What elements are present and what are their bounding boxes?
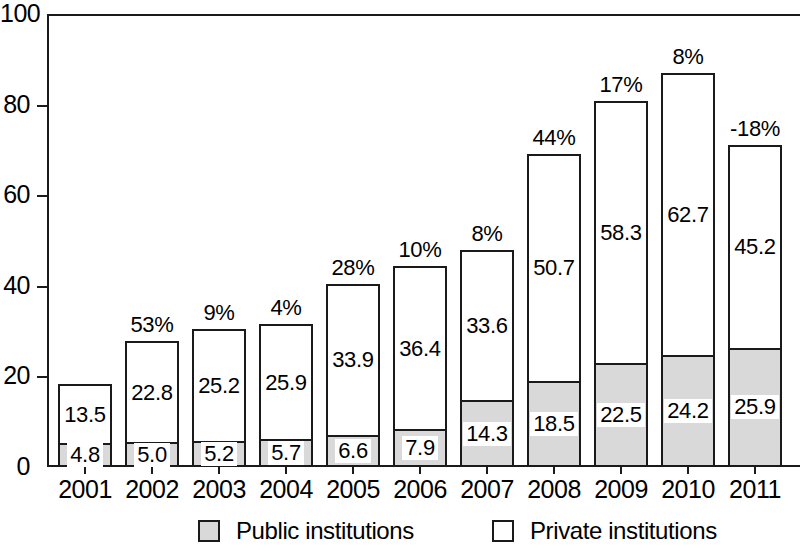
bar-segment-public[interactable]: 5.2 [192,441,246,467]
stacked-bar-chart: 020406080100 13.54.853%22.85.09%25.25.24… [0,0,810,551]
y-axis-label: 100 [0,1,30,26]
bar-value-private: 13.5 [64,404,106,426]
y-axis-label: 80 [0,92,30,117]
bar-value-public: 5.0 [134,443,170,467]
bar-segment-public[interactable]: 4.8 [58,443,112,467]
bar-value-public: 18.5 [530,412,578,436]
x-axis-tick [285,467,287,474]
y-axis-label: 60 [0,182,30,207]
bar-group[interactable]: 8%33.614.3 [460,250,514,467]
growth-percentage-label: 8% [471,223,502,245]
bar-value-public: 7.9 [402,436,438,460]
bar-segment-private[interactable]: 22.8 [125,341,179,444]
bar-segment-private[interactable]: 45.2 [728,145,782,350]
bar-group[interactable]: 44%50.718.5 [527,154,581,467]
chart-legend: Public institutionsPrivate institutions [0,517,810,547]
bar-segment-public[interactable]: 7.9 [393,429,447,467]
bar-segment-public[interactable]: 14.3 [460,400,514,467]
x-axis-tick [151,467,153,474]
growth-percentage-label: 44% [532,127,575,149]
bar-value-private: 22.8 [131,382,173,404]
growth-percentage-label: 53% [130,314,173,336]
y-axis-tick [37,376,47,378]
bar-group[interactable]: 13.54.8 [58,384,112,467]
y-axis-label: 0 [0,454,30,479]
bar-value-public: 6.6 [335,439,371,463]
bar-segment-private[interactable]: 25.9 [259,324,313,441]
bar-segment-public[interactable]: 18.5 [527,381,581,467]
bar-segment-private[interactable]: 58.3 [594,101,648,365]
bar-segment-private[interactable]: 25.2 [192,329,246,443]
bar-value-private: 33.9 [332,349,374,371]
bar-segment-public[interactable]: 6.6 [326,435,380,467]
growth-percentage-label: 9% [203,302,234,324]
y-axis-tick [37,195,47,197]
legend-label-public: Public institutions [236,519,414,543]
bar-segment-private[interactable]: 50.7 [527,154,581,384]
bar-value-private: 58.3 [600,222,642,244]
bar-group[interactable]: 4%25.95.7 [259,324,313,467]
bar-value-public: 25.9 [731,395,779,419]
bar-value-private: 45.2 [734,236,776,258]
growth-percentage-label: -18% [730,118,780,140]
x-axis-tick [352,467,354,474]
y-axis-tick [37,286,47,288]
bar-value-private: 50.7 [533,257,575,279]
bar-segment-private[interactable]: 62.7 [661,73,715,357]
x-axis-tick [419,467,421,474]
bar-segment-private[interactable]: 13.5 [58,384,112,445]
bar-group[interactable]: 28%33.96.6 [326,284,380,467]
x-axis-tick [754,467,756,474]
bar-value-public: 24.2 [664,399,712,423]
bar-segment-public[interactable]: 24.2 [661,355,715,467]
growth-percentage-label: 8% [672,46,703,68]
x-axis-tick [84,467,86,474]
x-axis-tick [687,467,689,474]
bar-segment-private[interactable]: 33.9 [326,284,380,438]
growth-percentage-label: 10% [398,239,441,261]
growth-percentage-label: 4% [270,297,301,319]
bar-value-private: 25.9 [265,372,307,394]
growth-percentage-label: 17% [599,74,642,96]
bar-group[interactable]: 53%22.85.0 [125,341,179,467]
y-axis-label: 40 [0,273,30,298]
bar-group[interactable]: 8%62.724.2 [661,73,715,467]
bar-value-public: 14.3 [463,422,511,446]
bar-segment-public[interactable]: 22.5 [594,363,648,467]
legend-swatch-public [198,520,220,542]
y-axis-label: 20 [0,363,30,388]
growth-percentage-label: 28% [331,257,374,279]
bar-value-public: 5.7 [268,441,304,465]
bar-segment-private[interactable]: 33.6 [460,250,514,402]
bar-group[interactable]: 10%36.47.9 [393,266,447,467]
bar-segment-public[interactable]: 5.7 [259,439,313,467]
legend-swatch-private [492,520,514,542]
x-axis-tick [486,467,488,474]
bar-segment-public[interactable]: 25.9 [728,348,782,467]
bar-value-private: 25.2 [198,375,240,397]
bar-value-public: 22.5 [597,403,645,427]
bar-group[interactable]: 9%25.25.2 [192,329,246,467]
bar-value-private: 36.4 [399,338,441,360]
x-axis-tick [553,467,555,474]
bar-segment-private[interactable]: 36.4 [393,266,447,431]
bars-layer: 13.54.853%22.85.09%25.25.24%25.95.728%33… [47,14,800,467]
legend-item-private[interactable]: Private institutions [492,517,717,545]
x-axis-label-2011: 2011 [710,477,800,502]
bar-segment-public[interactable]: 5.0 [125,442,179,467]
bar-value-public: 4.8 [67,443,103,467]
x-axis-tick [620,467,622,474]
y-axis-tick [37,105,47,107]
bar-group[interactable]: -18%45.225.9 [728,145,782,467]
bar-value-private: 62.7 [667,204,709,226]
legend-label-private: Private institutions [530,519,717,543]
bar-value-private: 33.6 [466,315,508,337]
bar-group[interactable]: 17%58.322.5 [594,101,648,467]
x-axis-tick [218,467,220,474]
legend-item-public[interactable]: Public institutions [198,517,414,545]
bar-value-public: 5.2 [201,442,237,466]
